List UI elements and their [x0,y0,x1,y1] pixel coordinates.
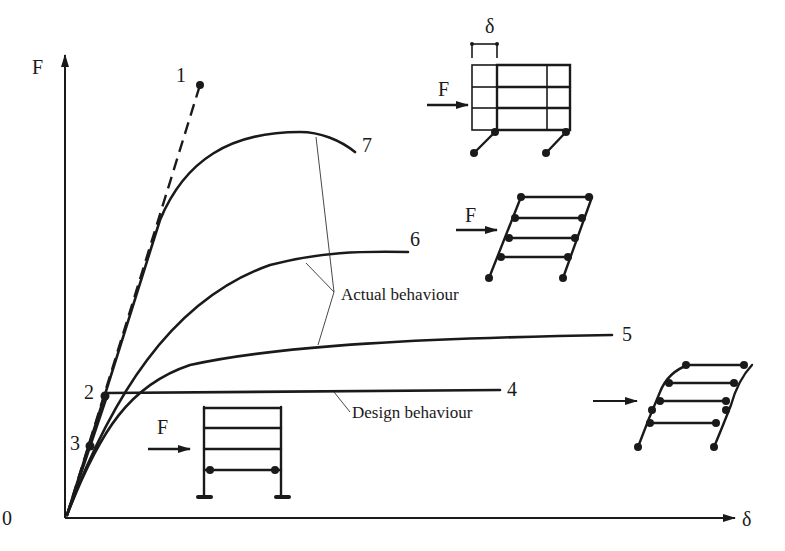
frame-bottom-left-fixed: F [148,407,291,499]
leader-curve-7 [306,263,334,292]
y-axis-label: F [32,56,43,78]
frame-top-sway-mechanism: δ F [427,15,570,157]
design-behaviour-label: Design behaviour [352,403,473,422]
x-axis-label: δ [742,508,751,530]
point-2 [101,392,110,401]
curve-7-label: 6 [410,228,420,250]
point-2-label: 2 [84,381,94,403]
frame-bottom-right-mechanism [593,361,752,451]
curve-5 [67,335,612,515]
frame-top-force-label: F [438,78,449,100]
frame-middle-beam-hinges: F [456,193,593,282]
frame-bottom-left-force-label: F [157,416,168,438]
curve-6 [67,132,355,515]
force-displacement-diagram: F δ 0 1 7 6 5 4 2 3 Actual behaviour Des… [0,0,785,551]
leader-curve-5 [318,292,334,345]
leader-lines [306,137,350,412]
actual-behaviour-label: Actual behaviour [341,285,459,304]
point-3-label: 3 [70,432,80,454]
curve-1-label: 1 [176,64,186,86]
frame-middle-force-label: F [465,204,476,226]
leader-design [334,392,350,412]
curve-4-label: 4 [507,378,517,400]
frame-top-disp-label: δ [485,15,494,37]
origin-label: 0 [2,507,12,529]
curve-1-end-point [196,81,204,89]
point-3 [86,442,95,451]
diagram-svg: F δ 0 1 7 6 5 4 2 3 Actual behaviour Des… [0,0,785,551]
curve-5-label: 5 [622,323,632,345]
curve-6-label: 7 [362,134,372,156]
leader-curve-6 [316,137,334,292]
